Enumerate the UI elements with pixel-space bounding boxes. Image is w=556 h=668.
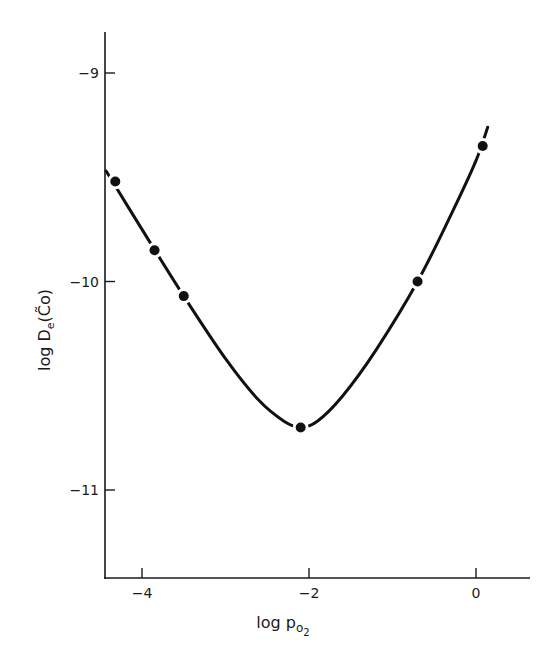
data-point: [478, 141, 488, 151]
data-point: [296, 422, 306, 432]
data-point: [179, 291, 189, 301]
data-point: [413, 277, 423, 287]
chart: −9−10−11 −4−20 log po2 log De(C̃o): [0, 0, 556, 668]
y-axis-label: log De(C̃o): [35, 289, 57, 371]
x-tick-label: −2: [299, 585, 320, 601]
x-tick-label: −4: [132, 585, 153, 601]
y-tick-label: −9: [78, 65, 99, 81]
data-point: [110, 176, 120, 186]
fitted-curve: [106, 127, 488, 427]
x-axis-label: log po2: [256, 613, 309, 638]
data-point: [150, 245, 160, 255]
axes: [104, 32, 530, 579]
x-tick-label: 0: [472, 585, 481, 601]
y-tick-label: −10: [69, 274, 99, 290]
y-ticks: −9−10−11: [69, 65, 115, 498]
y-tick-label: −11: [69, 482, 99, 498]
data-points: [107, 138, 490, 435]
x-ticks: −4−20: [132, 568, 481, 601]
